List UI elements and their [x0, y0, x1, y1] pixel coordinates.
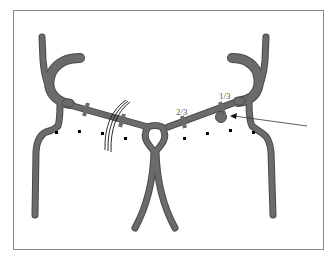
marker-dot — [78, 130, 81, 133]
marker-dot — [183, 137, 186, 140]
marker-dot — [252, 131, 255, 134]
marker-dot — [55, 131, 58, 134]
marker-dot — [229, 129, 232, 132]
right-junction — [233, 97, 245, 105]
label-two-thirds: 2/3 — [176, 107, 188, 117]
left-junction — [62, 99, 74, 107]
marker-dot — [124, 137, 127, 140]
marker-dot — [101, 132, 104, 135]
marker-dot — [206, 132, 209, 135]
aneurysm-bulge — [216, 112, 227, 123]
label-one-third: 1/3 — [219, 91, 231, 101]
vascular-diagram: 2/3 1/3 — [0, 0, 335, 257]
